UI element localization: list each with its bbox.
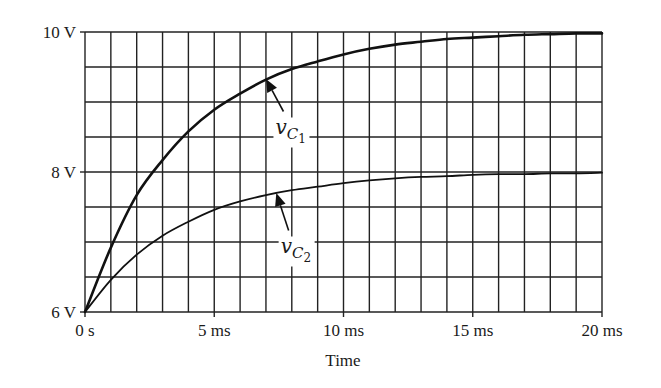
y-tick-label: 6 V	[51, 303, 76, 322]
y-tick-label: 10 V	[43, 23, 77, 42]
x-tick-label: 0 s	[75, 321, 94, 340]
series-annotations: vC1vC2	[266, 79, 315, 267]
rc-charging-chart: 0 s5 ms10 ms15 ms20 ms6 V8 V10 V vC1vC2 …	[0, 0, 661, 388]
annotation-arrow-shaft	[280, 205, 288, 230]
x-tick-label: 15 ms	[452, 321, 493, 340]
x-tick-label: 20 ms	[581, 321, 622, 340]
annotation-arrow-head-icon	[275, 193, 285, 207]
y-tick-label: 8 V	[51, 163, 76, 182]
x-tick-label: 10 ms	[323, 321, 364, 340]
plot-grid	[85, 32, 602, 312]
x-axis-title: Time	[325, 351, 360, 370]
axis-ticks: 0 s5 ms10 ms15 ms20 ms6 V8 V10 V	[43, 23, 623, 340]
x-tick-label: 5 ms	[198, 321, 231, 340]
annotation-arrow-head-icon	[266, 79, 277, 93]
annotation-arrow-shaft	[272, 90, 283, 111]
